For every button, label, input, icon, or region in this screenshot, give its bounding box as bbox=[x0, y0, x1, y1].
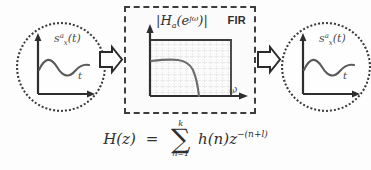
frequency-response-plot bbox=[126, 8, 258, 116]
equation-equals: = bbox=[146, 130, 159, 148]
block-arrow-filter-to-right bbox=[258, 47, 280, 72]
input-signal-node: sax(t) t bbox=[16, 22, 106, 112]
output-label-arg: (t) bbox=[333, 32, 346, 45]
input-time-axis-label: t bbox=[78, 70, 82, 81]
input-signal-label: sax(t) bbox=[54, 32, 81, 47]
equation-term-h: h(n) bbox=[198, 130, 229, 148]
summation-operator: k ∑ n=1 bbox=[171, 118, 190, 160]
output-time-axis-label: t bbox=[343, 70, 347, 81]
x-axis-arrowhead bbox=[239, 92, 248, 99]
sigma-glyph: ∑ bbox=[171, 126, 190, 152]
y-axis-arrowhead bbox=[146, 24, 153, 33]
equation-exponent: −(n+l) bbox=[237, 129, 268, 139]
fir-filter-block: FIR |Ha(ejω)| ω bbox=[124, 6, 256, 114]
output-signal-label: sax(t) bbox=[319, 32, 346, 47]
passband-shaded-region bbox=[150, 40, 231, 96]
sum-lower-limit: n=1 bbox=[171, 150, 190, 158]
equation-lhs: H(z) bbox=[103, 130, 136, 148]
input-label-arg: (t) bbox=[68, 32, 81, 45]
transfer-function-equation: H(z) = k ∑ n=1 h(n)z−(n+l) bbox=[0, 118, 371, 160]
equation-term-z: z bbox=[229, 130, 237, 148]
diagram-canvas: sax(t) t FIR |Ha(ejω)| ω bbox=[0, 0, 371, 170]
sum-upper-limit: k bbox=[171, 120, 190, 128]
output-signal-node: sax(t) t bbox=[281, 22, 371, 112]
